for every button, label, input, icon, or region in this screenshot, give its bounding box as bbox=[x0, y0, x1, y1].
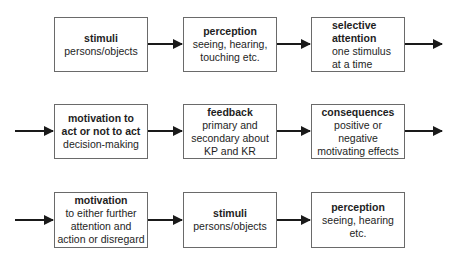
box-perception-2: perception seeing, hearing etc. bbox=[311, 192, 405, 248]
box-title: motivation bbox=[74, 194, 127, 207]
box-consequences: consequences positive or negative motiva… bbox=[311, 104, 405, 159]
box-title: feedback bbox=[207, 106, 253, 119]
box-feedback: feedback primary and secondary about KP … bbox=[183, 104, 277, 159]
box-perception: perception seeing, hearing, touching etc… bbox=[183, 17, 277, 72]
box-title: selective attention bbox=[332, 19, 376, 45]
box-body: one stimulus at a time bbox=[332, 45, 391, 71]
box-title: perception bbox=[203, 25, 257, 38]
box-body: persons/objects bbox=[193, 220, 267, 233]
box-body: decision-making bbox=[63, 138, 139, 151]
box-title: motivation to act or not to act bbox=[62, 112, 141, 138]
box-body: to either further attention and action o… bbox=[58, 207, 145, 246]
box-body: positive or negative motivating effects bbox=[317, 119, 399, 158]
box-motivation: motivation to either further attention a… bbox=[54, 192, 148, 248]
box-selective-attention: selective attention one stimulus at a ti… bbox=[311, 17, 405, 72]
box-title: stimuli bbox=[213, 207, 247, 220]
box-title: perception bbox=[331, 201, 385, 214]
box-body: primary and secondary about KP and KR bbox=[191, 119, 269, 158]
box-body: seeing, hearing, touching etc. bbox=[193, 38, 268, 64]
box-motivation-to-act: motivation to act or not to act decision… bbox=[54, 104, 148, 159]
box-title: stimuli bbox=[84, 32, 118, 45]
box-body: seeing, hearing etc. bbox=[322, 214, 394, 240]
box-title: consequences bbox=[322, 106, 395, 119]
box-stimuli: stimuli persons/objects bbox=[54, 17, 148, 72]
box-stimuli-2: stimuli persons/objects bbox=[183, 192, 277, 248]
box-body: persons/objects bbox=[64, 45, 138, 58]
